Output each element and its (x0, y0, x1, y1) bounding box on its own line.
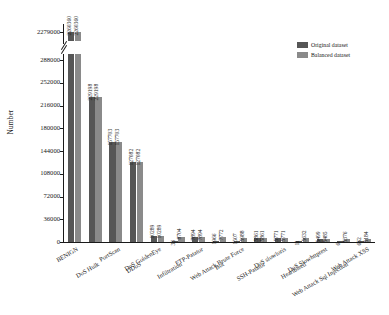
bar-value-label: 229198 (95, 84, 101, 101)
bar-value-label: 5988 (240, 231, 246, 242)
bar-group: 6525184 (358, 24, 371, 242)
y-tick-mark (60, 128, 63, 129)
bar-group: 57715771 (275, 24, 288, 242)
y-tick-mark (60, 106, 63, 107)
bar-group: 157703157703 (109, 24, 122, 242)
bar-value-label: 5184 (364, 231, 370, 242)
bar-value-label: 10289 (150, 225, 156, 239)
y-tick-label: 288000 (14, 57, 60, 64)
y-tick-label: 72000 (14, 193, 60, 200)
bar-group: 22603602260360 (68, 24, 81, 242)
bar-value-label: 5771 (281, 231, 287, 242)
bar-value-label: 2260360 (74, 16, 80, 36)
bar-chart: Number 036000720001080001440001800002160… (0, 0, 389, 315)
legend-label: Original dataset (311, 41, 348, 50)
bar-value-label: 5376 (344, 231, 350, 242)
y-tick-mark (60, 151, 63, 152)
bar-original (130, 162, 136, 242)
y-tick-label: 36000 (14, 216, 60, 223)
bar-value-label: 6 (337, 243, 343, 246)
bar-value-label: 5632 (302, 231, 308, 242)
y-tick-label: 216000 (14, 102, 60, 109)
bar-balanced (116, 142, 122, 242)
legend-swatch (297, 42, 308, 48)
bar-value-label: 5485 (323, 231, 329, 242)
y-tick-label: 180000 (14, 125, 60, 132)
bar-value-label: 7772 (219, 229, 225, 240)
legend-item: Balanced dataset (297, 51, 350, 60)
bar-group: 58615861 (254, 24, 267, 242)
legend: Original datasetBalanced dataset (297, 41, 350, 61)
bar-value-label: 36 (171, 240, 177, 246)
bar-balanced (137, 162, 143, 242)
bar-value-label: 1966 (212, 233, 218, 244)
bar-value-label: 8704 (178, 229, 184, 240)
bar-group: 19667772 (213, 24, 226, 242)
bar-value-label: 157703 (116, 129, 122, 146)
y-tick-label: 2279000 (14, 29, 60, 36)
bar-original (68, 54, 74, 242)
y-tick-label: 252000 (14, 79, 60, 86)
bar-value-label: 5499 (316, 231, 322, 242)
bar-original (89, 97, 95, 242)
y-tick-label: 0 (14, 239, 60, 246)
bar-group: 127082127082 (130, 24, 143, 242)
legend-label: Balanced dataset (311, 51, 350, 60)
bar-balanced (75, 54, 81, 242)
y-tick-mark (60, 197, 63, 198)
bar-value-label: 127082 (136, 149, 142, 166)
bar-value-label: 652 (358, 237, 364, 245)
bar-group: 15075988 (234, 24, 247, 242)
y-tick-mark (60, 174, 63, 175)
y-tick-mark (60, 242, 63, 243)
bar-value-label: 127082 (130, 149, 136, 166)
y-tick-label: 108000 (14, 170, 60, 177)
bar-original (109, 142, 115, 242)
bar-value-label: 5861 (261, 231, 267, 242)
bar-group: 1028910289 (151, 24, 164, 242)
y-tick-mark (60, 219, 63, 220)
bar-group: 78947894 (192, 24, 205, 242)
bar-group: 368704 (172, 24, 185, 242)
bar-balanced (95, 97, 101, 242)
legend-item: Original dataset (297, 41, 350, 50)
bar-value-label: 2260360 (67, 16, 73, 36)
bar-value-label: 7894 (199, 229, 205, 240)
y-tick-mark (60, 83, 63, 84)
bar-value-label: 11 (295, 240, 301, 245)
y-tick-mark (60, 32, 63, 33)
bar-value-label: 10289 (157, 225, 163, 239)
legend-swatch (297, 52, 308, 58)
y-tick-label: 144000 (14, 148, 60, 155)
y-axis-ticks: 0360007200010800014400018000021600025200… (10, 0, 60, 315)
bar-value-label: 1507 (233, 233, 239, 244)
bar-group: 229198229198 (89, 24, 102, 242)
y-tick-mark (60, 60, 63, 61)
